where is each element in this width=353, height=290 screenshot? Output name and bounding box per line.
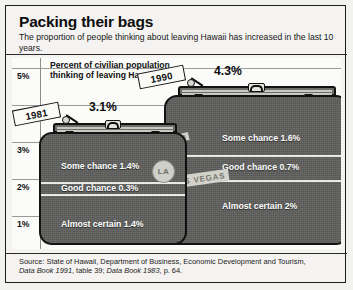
suitcase-1990-body: Some chance 1.6% Good chance 0.7% Almost… — [164, 95, 341, 245]
source-databook-1983: Data Book 1983 — [107, 266, 160, 275]
header: Packing their bags The proportion of peo… — [12, 12, 341, 56]
footer-divider — [6, 253, 347, 254]
y-axis-tick-2pct: 2% — [17, 182, 29, 192]
y-axis-tick-5pct: 5% — [17, 71, 29, 81]
y-axis-tick-3pct: 3% — [17, 145, 29, 155]
segment-label-some-chance-1990: Some chance 1.6% — [222, 133, 300, 143]
segment-label-almost-certain-1981: Almost certain 1.4% — [61, 219, 144, 229]
source-databook-1991: Data Book 1991 — [19, 266, 72, 275]
segment-label-almost-certain-1990: Almost certain 2% — [222, 201, 297, 211]
suitcase-1990-handle-grip — [250, 85, 263, 91]
segment-divider — [41, 194, 185, 196]
source-page-ref: , p. 64. — [160, 266, 183, 275]
suitcase-1981-body: Some chance 1.4% Good chance 0.3% Almost… — [39, 132, 187, 245]
suitcase-1981: Some chance 1.4% Good chance 0.3% Almost… — [39, 120, 187, 248]
source-note: Source: State of Hawaii, Department of B… — [19, 257, 339, 275]
y-axis-tick-1pct: 1% — [17, 219, 29, 229]
page-title: Packing their bags — [19, 13, 153, 31]
segment-label-some-chance-1981: Some chance 1.4% — [61, 161, 139, 171]
segment-label-good-chance-1990: Good chance 0.7% — [222, 162, 299, 172]
infographic-page: Packing their bags The proportion of peo… — [0, 0, 353, 290]
segment-label-good-chance-1981: Good chance 0.3% — [61, 183, 138, 193]
segment-divider — [166, 155, 341, 157]
suitcase-1981-handle-grip — [107, 122, 119, 128]
suitcase-1990: Some chance 1.6% Good chance 0.7% Almost… — [164, 83, 341, 248]
plot-area: 5% 4% 3% 2% 1% Percent of civilian popul… — [12, 58, 341, 249]
source-line-1: Source: State of Hawaii, Department of B… — [19, 257, 306, 266]
suitcase-1990-tag-ring — [187, 79, 195, 87]
suitcase-1981-tag-ring — [62, 116, 70, 124]
subtitle: The proportion of people thinking about … — [19, 32, 339, 53]
total-label-1981: 3.1% — [89, 100, 117, 114]
header-divider — [6, 54, 347, 55]
total-label-1990: 4.3% — [214, 64, 242, 78]
sticker-la: LA — [152, 160, 175, 183]
source-table-ref: , table 39; — [72, 266, 107, 275]
chart-frame: Packing their bags The proportion of peo… — [5, 5, 346, 283]
